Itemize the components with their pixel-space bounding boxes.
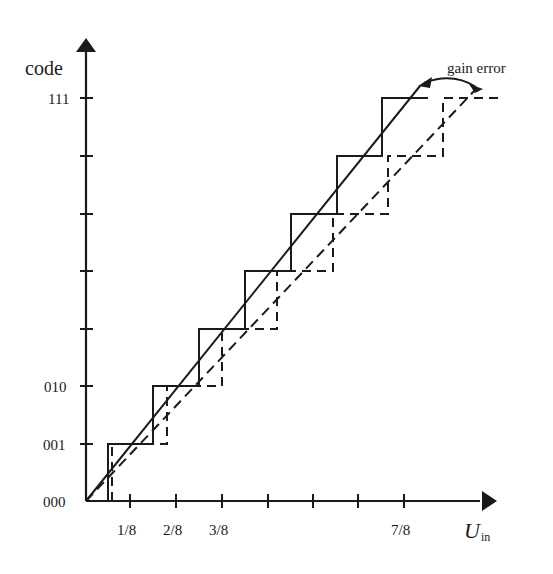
gain-error-line xyxy=(86,89,476,501)
gain-error-label: gain error xyxy=(447,60,506,76)
y-tick-label-000: 000 xyxy=(43,494,66,510)
gain-error-staircase xyxy=(112,98,500,501)
x-tick-label-1-8: 1/8 xyxy=(117,522,136,538)
y-tick-label-001: 001 xyxy=(43,437,66,453)
y-axis-label: code xyxy=(25,57,63,79)
gain-error-arrow-right-icon xyxy=(469,84,483,93)
x-tick-label-2-8: 2/8 xyxy=(163,522,182,538)
x-axis-label-main: U xyxy=(464,518,482,543)
y-axis-arrow-icon xyxy=(76,38,96,52)
y-tick-label-111: 111 xyxy=(48,91,69,107)
x-axis-arrow-icon xyxy=(482,491,497,511)
adc-transfer-diagram: code 111 010 001 000 1/8 2/8 3/8 7/8 U i… xyxy=(0,0,553,574)
x-tick-label-7-8: 7/8 xyxy=(391,522,410,538)
x-tick-label-3-8: 3/8 xyxy=(209,522,228,538)
axes xyxy=(86,50,480,501)
y-tick-label-010: 010 xyxy=(44,379,67,395)
ideal-staircase xyxy=(86,98,428,501)
gain-error-arrow-left-icon xyxy=(418,77,432,88)
ideal-line xyxy=(86,86,420,501)
x-axis-label-sub: in xyxy=(481,530,490,544)
gain-error-arc xyxy=(424,78,476,87)
